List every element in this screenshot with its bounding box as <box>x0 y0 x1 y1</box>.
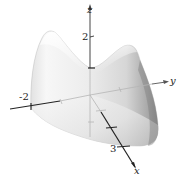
y-axis <box>152 80 169 84</box>
y-tick-label: -2 <box>19 91 29 102</box>
x-axis-label: x <box>134 165 140 174</box>
z-tick-2 <box>90 36 94 37</box>
x-tick-label: 3 <box>110 143 116 154</box>
y-arrow-icon <box>163 80 169 84</box>
y-axis-label: y <box>169 75 176 86</box>
surface-plot-figure: z 2 y -2 x 3 <box>0 0 180 174</box>
x-tick-3 <box>117 146 130 147</box>
z-tick-label: 2 <box>82 31 88 42</box>
z-axis-label: z <box>86 4 93 15</box>
